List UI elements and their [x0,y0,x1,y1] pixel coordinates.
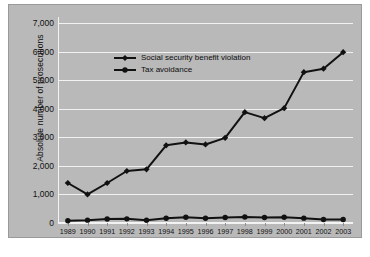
x-axis-tick-label: 2003 [335,227,351,236]
x-axis-tick-label: 1989 [60,227,76,236]
legend-marker-diamond [113,52,137,64]
x-axis-tick-mark [284,223,285,226]
caption-strip [8,243,362,252]
legend-item: Tax avoidance [113,64,250,76]
x-axis-tick-label: 1993 [139,227,155,236]
x-axis-tick-mark [343,223,344,226]
y-axis-tick-label: 1,000 [33,189,54,199]
legend-marker-circle [113,64,137,76]
data-point [281,215,286,220]
y-axis-tick-label: 6,000 [33,47,54,57]
x-axis-tick-mark [304,223,305,226]
y-axis-tick-label: 3,000 [33,132,54,142]
x-axis-tick-label: 1996 [198,227,214,236]
y-axis-title: Absolute number of prosecutions [35,23,45,173]
x-axis-tick-mark [68,223,69,226]
data-point [262,215,267,220]
x-axis-tick-label: 1997 [217,227,233,236]
data-point [144,218,149,223]
chart-screenshot: Absolute number of prosecutions 01,0002,… [0,0,370,257]
x-axis-tick-label: 2000 [276,227,292,236]
x-axis-tick-label: 2002 [316,227,332,236]
data-point [65,218,70,223]
x-axis-tick-mark [206,223,207,226]
series-2 [65,214,346,223]
x-axis-tick-mark [107,223,108,226]
x-axis-tick-mark [127,223,128,226]
x-axis-tick-label: 1999 [257,227,273,236]
data-point [163,216,168,221]
x-axis-tick-mark [186,223,187,226]
data-point [321,217,326,222]
y-axis-tick-label: 0 [49,218,54,228]
data-point [183,139,189,145]
x-axis-tick-label: 1990 [80,227,96,236]
data-point [222,215,227,220]
data-point [301,215,306,220]
x-axis-tick-mark [166,223,167,226]
x-axis-tick-label: 1994 [158,227,174,236]
x-axis-tick-mark [147,223,148,226]
chart-legend: Social security benefit violationTax avo… [113,52,250,76]
x-axis-tick-mark [245,223,246,226]
data-point [203,216,208,221]
data-point [124,216,129,221]
x-axis-tick-label: 1995 [178,227,194,236]
data-point [242,214,247,219]
x-axis-tick-mark [324,223,325,226]
data-point [104,216,109,221]
y-axis-tick-label: 5,000 [33,75,54,85]
chart-figure: Absolute number of prosecutions 01,0002,… [8,4,362,238]
data-point [340,217,345,222]
x-axis-tick-mark [265,223,266,226]
x-axis-tick-label: 1991 [99,227,115,236]
x-axis-tick-label: 1998 [237,227,253,236]
y-axis-tick-label: 4,000 [33,104,54,114]
y-axis-tick-label: 7,000 [33,18,54,28]
legend-label: Tax avoidance [141,66,192,74]
data-point [183,215,188,220]
x-axis-tick-mark [225,223,226,226]
x-axis-tick-mark [88,223,89,226]
y-axis-tick-label: 2,000 [33,161,54,171]
data-point [202,141,208,147]
legend-item: Social security benefit violation [113,52,250,64]
data-point [85,217,90,222]
x-axis-tick-label: 2001 [296,227,312,236]
legend-label: Social security benefit violation [141,54,250,62]
x-axis-tick-label: 1992 [119,227,135,236]
